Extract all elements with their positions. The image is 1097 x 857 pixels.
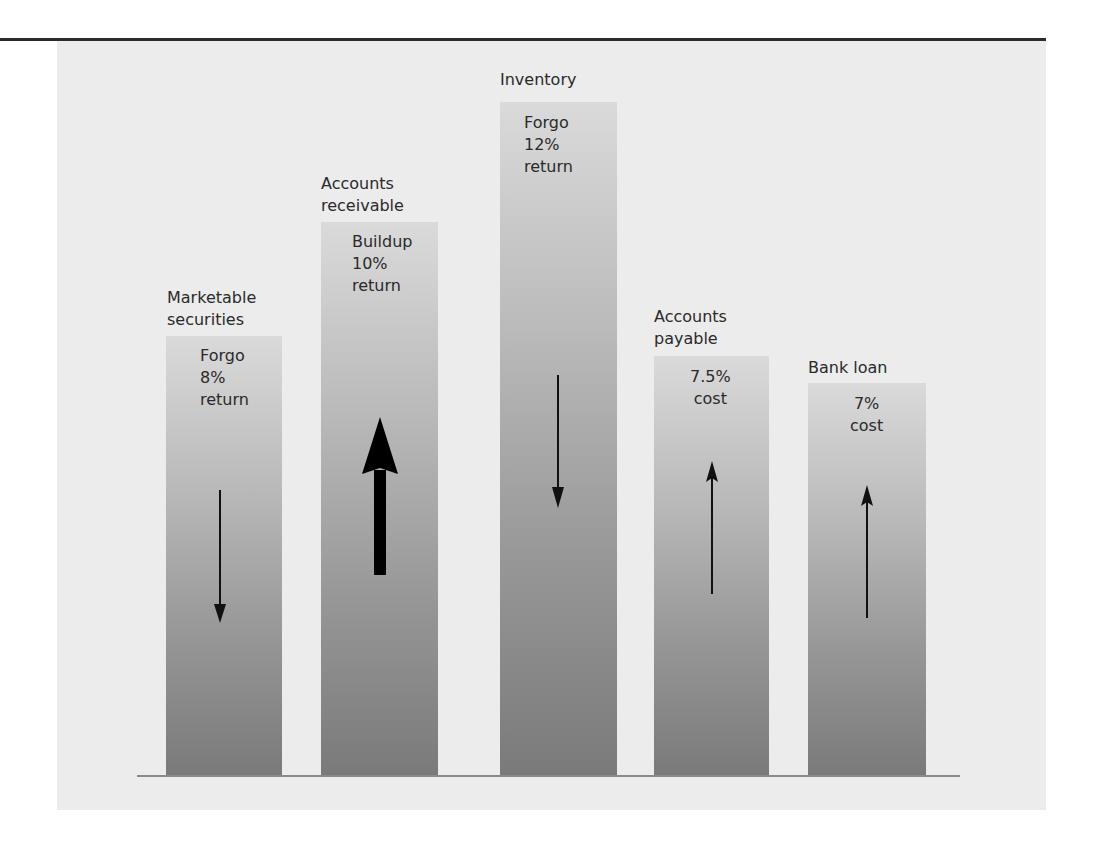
- baseline-axis: [137, 775, 960, 777]
- bar-label-marketable-securities: Marketable securities: [167, 287, 256, 331]
- bar-text-bank-loan: 7% cost: [850, 393, 883, 437]
- bar-text-accounts-receivable: Buildup 10% return: [352, 231, 412, 297]
- bar-text-accounts-payable: 7.5% cost: [690, 366, 731, 410]
- bar-label-accounts-payable: Accounts payable: [654, 306, 727, 350]
- bar-label-bank-loan: Bank loan: [808, 357, 887, 379]
- bar-accounts-payable: [654, 356, 769, 775]
- bar-label-inventory: Inventory: [500, 69, 576, 91]
- bar-text-marketable-securities: Forgo 8% return: [200, 345, 249, 411]
- bar-inventory: [500, 102, 617, 775]
- bar-text-inventory: Forgo 12% return: [524, 112, 573, 178]
- bar-label-accounts-receivable: Accounts receivable: [321, 173, 404, 217]
- bar-accounts-receivable: [321, 222, 438, 775]
- bar-bank-loan: [808, 383, 926, 775]
